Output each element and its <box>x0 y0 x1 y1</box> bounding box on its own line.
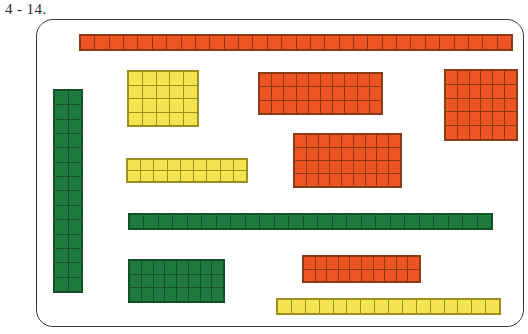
unit-cell <box>297 36 310 49</box>
unit-cell <box>375 300 388 313</box>
unit-cell <box>154 261 165 274</box>
unit-cell <box>55 220 68 233</box>
unit-cell <box>69 263 82 276</box>
unit-cell <box>377 161 388 173</box>
unit-cell <box>470 99 481 112</box>
unit-cell <box>304 215 317 228</box>
unit-cell <box>278 300 291 313</box>
unit-cell <box>493 126 504 139</box>
unit-cell <box>321 101 332 113</box>
block-orange-mid-right-block <box>293 133 402 188</box>
unit-cell <box>272 87 283 99</box>
unit-cell <box>446 85 457 98</box>
unit-cell <box>330 148 341 160</box>
block-green-long-strip <box>128 213 493 230</box>
block-orange-upper-mid-block <box>258 72 383 115</box>
unit-cell <box>342 148 353 160</box>
unit-cell <box>165 288 176 301</box>
unit-cell <box>184 113 197 126</box>
unit-cell <box>177 288 188 301</box>
unit-cell <box>481 112 492 125</box>
unit-cell <box>449 215 462 228</box>
unit-cell <box>374 257 385 269</box>
unit-cell <box>141 171 153 181</box>
unit-cell <box>55 134 68 147</box>
unit-cell <box>69 120 82 133</box>
block-green-tall-column <box>53 89 83 293</box>
block-orange-upper-right-block <box>444 69 518 141</box>
unit-cell <box>295 174 306 186</box>
unit-cell <box>202 215 215 228</box>
unit-cell <box>505 99 516 112</box>
unit-cell <box>272 101 283 113</box>
unit-cell <box>188 215 201 228</box>
unit-cell <box>196 36 209 49</box>
unit-cell <box>389 300 402 313</box>
unit-cell <box>260 74 271 86</box>
unit-cell <box>253 36 266 49</box>
unit-cell <box>358 74 369 86</box>
unit-cell <box>55 91 68 104</box>
unit-cell <box>481 99 492 112</box>
unit-cell <box>173 215 186 228</box>
unit-cell <box>358 101 369 113</box>
unit-cell <box>55 105 68 118</box>
unit-cell <box>307 148 318 160</box>
unit-cell <box>177 261 188 274</box>
unit-cell <box>184 99 197 112</box>
unit-cell <box>282 36 295 49</box>
unit-cell <box>167 36 180 49</box>
unit-cell <box>458 300 471 313</box>
unit-cell <box>184 72 197 85</box>
unit-cell <box>431 300 444 313</box>
unit-cell <box>458 112 469 125</box>
unit-cell <box>272 74 283 86</box>
unit-cell <box>225 36 238 49</box>
unit-cell <box>55 278 68 291</box>
unit-cell <box>333 87 344 99</box>
unit-cell <box>342 161 353 173</box>
unit-cell <box>383 36 396 49</box>
unit-cell <box>370 74 381 86</box>
unit-cell <box>130 288 141 301</box>
unit-cell <box>69 91 82 104</box>
unit-cell <box>434 215 447 228</box>
unit-cell <box>493 85 504 98</box>
unit-cell <box>340 36 353 49</box>
unit-cell <box>319 161 330 173</box>
unit-cell <box>483 36 496 49</box>
unit-cell <box>316 270 327 282</box>
unit-cell <box>408 270 419 282</box>
unit-cell <box>370 101 381 113</box>
unit-cell <box>389 161 400 173</box>
unit-cell <box>403 300 416 313</box>
unit-cell <box>304 257 315 269</box>
unit-cell <box>157 86 170 99</box>
unit-cell <box>493 112 504 125</box>
unit-cell <box>304 270 315 282</box>
unit-cell <box>472 300 485 313</box>
unit-cell <box>143 99 156 112</box>
unit-cell <box>319 148 330 160</box>
unit-cell <box>55 177 68 190</box>
unit-cell <box>201 288 212 301</box>
unit-cell <box>144 215 157 228</box>
unit-cell <box>143 86 156 99</box>
unit-cell <box>165 261 176 274</box>
unit-cell <box>446 112 457 125</box>
unit-cell <box>327 270 338 282</box>
unit-cell <box>181 171 193 181</box>
unit-cell <box>458 85 469 98</box>
unit-cell <box>95 36 108 49</box>
unit-cell <box>184 86 197 99</box>
unit-cell <box>69 163 82 176</box>
unit-cell <box>142 261 153 274</box>
unit-cell <box>426 36 439 49</box>
unit-cell <box>170 113 183 126</box>
unit-cell <box>231 215 244 228</box>
unit-cell <box>194 171 206 181</box>
unit-cell <box>170 86 183 99</box>
unit-cell <box>128 160 140 170</box>
worksheet-panel <box>36 19 524 327</box>
unit-cell <box>142 288 153 301</box>
